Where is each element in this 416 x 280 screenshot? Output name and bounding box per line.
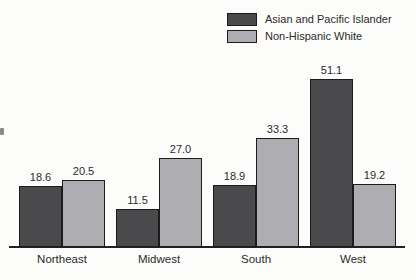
value-label-northeast-api: 18.6 [30, 170, 51, 184]
left-edge-mark [0, 128, 4, 135]
bar-chart-figure: Asian and Pacific IslanderNon-Hispanic W… [0, 0, 416, 280]
bar-midwest-nhw [159, 158, 202, 247]
bar-south-nhw [256, 138, 299, 247]
bar-northeast-nhw [62, 180, 105, 247]
value-label-west-nhw: 19.2 [364, 168, 385, 182]
value-label-midwest-nhw: 27.0 [170, 142, 191, 156]
category-label-south: South [241, 253, 271, 265]
value-label-south-nhw: 33.3 [267, 122, 288, 136]
bar-northeast-api [19, 186, 62, 247]
bar-south-api [213, 185, 256, 247]
bar-west-api [310, 79, 353, 247]
category-label-northeast: Northeast [37, 253, 87, 265]
category-label-west: West [340, 253, 366, 265]
category-label-midwest: Midwest [138, 253, 180, 265]
value-label-northeast-nhw: 20.5 [73, 164, 94, 178]
plot-area: 18.620.5Northeast11.527.0Midwest18.933.3… [0, 0, 416, 280]
bar-midwest-api [116, 209, 159, 247]
value-label-south-api: 18.9 [224, 169, 245, 183]
value-label-midwest-api: 11.5 [127, 193, 148, 207]
bar-west-nhw [353, 184, 396, 247]
value-label-west-api: 51.1 [321, 63, 342, 77]
